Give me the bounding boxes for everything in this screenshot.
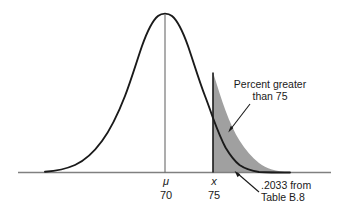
table-reference-arrow — [235, 171, 259, 192]
table-reference-label: .2033 from Table B.8 — [261, 179, 311, 203]
axis-label-mean-symbol: μ — [155, 175, 177, 188]
normal-curve-figure: Percent greater than 75 .2033 from Table… — [0, 0, 346, 214]
percent-greater-line-1: Percent greater — [234, 78, 306, 90]
percent-greater-arrow — [228, 104, 250, 133]
table-reference-line-1: .2033 from — [261, 179, 311, 191]
axis-label-cutoff-symbol: x — [203, 175, 225, 188]
percent-greater-label: Percent greater than 75 — [222, 78, 318, 102]
table-reference-line-2: Table B.8 — [261, 191, 305, 203]
axis-label-cutoff-value: 75 — [203, 189, 225, 202]
percent-greater-line-2: than 75 — [252, 90, 287, 102]
axis-label-mean-value: 70 — [155, 189, 177, 202]
